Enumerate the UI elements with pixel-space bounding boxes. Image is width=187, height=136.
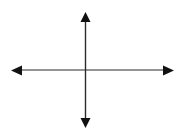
axes-diagram <box>0 0 187 136</box>
right-arrow-icon <box>163 66 174 76</box>
axes-svg <box>0 0 187 136</box>
left-arrow-icon <box>11 66 22 76</box>
down-arrow-icon <box>81 118 91 128</box>
up-arrow-icon <box>81 12 91 22</box>
